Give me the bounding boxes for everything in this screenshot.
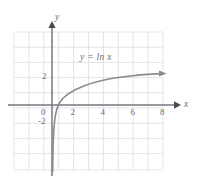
x-axis-label: x [184, 100, 188, 110]
x-tick-label-4: 4 [101, 108, 106, 117]
y-tick-label-neg2: -2 [38, 117, 46, 126]
graph-canvas [0, 0, 200, 192]
y-axis-label: y [55, 13, 59, 23]
log-function-graph-figure: y x y = ln x 0 2 4 6 8 2 -2 [0, 0, 200, 192]
y-axis [48, 21, 55, 176]
y-tick-label-2: 2 [42, 72, 47, 81]
ln-curve [53, 71, 167, 172]
x-tick-label-6: 6 [131, 108, 136, 117]
x-tick-label-8: 8 [160, 108, 165, 117]
equation-annotation: y = ln x [80, 53, 112, 63]
x-tick-label-2: 2 [71, 108, 76, 117]
